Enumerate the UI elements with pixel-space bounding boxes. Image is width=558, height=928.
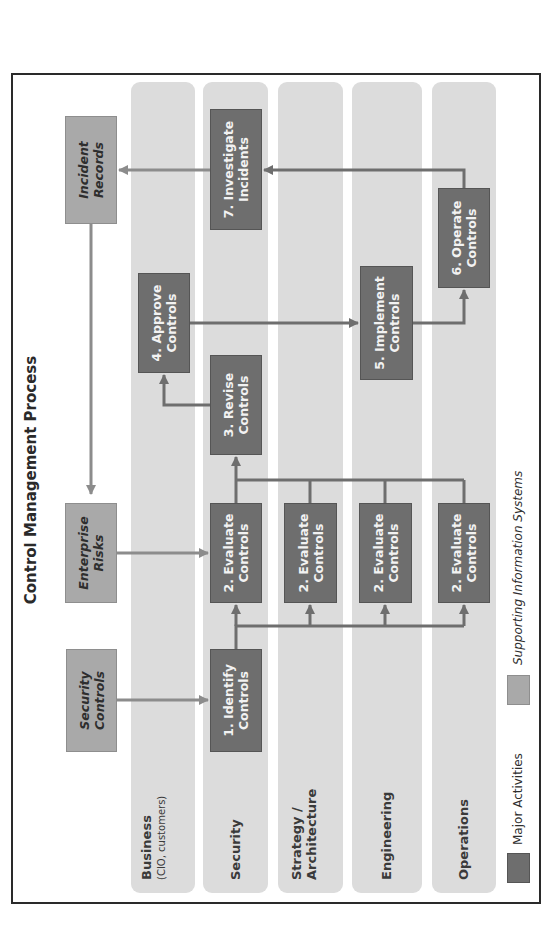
- incident-records-box: IncidentRecords: [65, 116, 117, 224]
- evaluate-controls-security-box: 2. EvaluateControls: [210, 503, 262, 603]
- box-line2: Controls: [236, 375, 251, 434]
- box-line1: 2. Evaluate: [221, 514, 236, 593]
- box-line2: Controls: [236, 671, 251, 730]
- box-line1: 3. Revise: [221, 373, 236, 437]
- box-line1: 6. Operate: [449, 201, 464, 276]
- box-line1: Security: [77, 671, 92, 729]
- box-line2: Controls: [464, 208, 479, 267]
- box-line2: Controls: [311, 523, 326, 582]
- box-line1: 2. Evaluate: [449, 514, 464, 593]
- legend-major-activities-swatch: [507, 853, 530, 883]
- legend-supporting-systems-label: Supporting Information Systems: [507, 471, 530, 665]
- evaluate-controls-engineering-box: 2. EvaluateControls: [359, 503, 412, 603]
- box-line2: Incidents: [236, 137, 251, 202]
- security-controls-box: SecurityControls: [66, 649, 117, 752]
- evaluate-controls-strategy-box: 2. EvaluateControls: [284, 503, 337, 603]
- box-line2: Risks: [91, 534, 106, 571]
- box-line1: Enterprise: [76, 516, 91, 589]
- box-line2: Controls: [387, 293, 402, 352]
- box-line2: Controls: [386, 523, 401, 582]
- investigate-incidents-box: 7. InvestigateIncidents: [210, 109, 262, 230]
- identify-controls-box: 1. IdentifyControls: [210, 649, 262, 752]
- box-line1: 1. Identify: [221, 664, 236, 737]
- box-line2: Controls: [92, 671, 107, 730]
- box-line1: 5. Implement: [372, 276, 387, 370]
- enterprise-risks-box: EnterpriseRisks: [65, 503, 117, 603]
- box-line1: 4. Approve: [149, 285, 164, 362]
- box-line1: 2. Evaluate: [296, 514, 311, 593]
- diagram-canvas: Control Management Process Business (CIO…: [0, 0, 558, 928]
- implement-controls-box: 5. ImplementControls: [360, 266, 413, 380]
- approve-controls-box: 4. ApproveControls: [138, 273, 190, 373]
- box-line1: Incident: [76, 141, 91, 199]
- legend-supporting-systems-swatch: [507, 675, 530, 705]
- box-line2: Records: [91, 142, 106, 198]
- box-line2: Controls: [164, 293, 179, 352]
- box-line2: Controls: [236, 523, 251, 582]
- box-line2: Controls: [464, 523, 479, 582]
- box-line1: 7. Investigate: [221, 121, 236, 219]
- box-line1: 2. Evaluate: [371, 514, 386, 593]
- legend-major-activities-label: Major Activities: [507, 753, 530, 845]
- revise-controls-box: 3. ReviseControls: [210, 355, 262, 455]
- operate-controls-box: 6. OperateControls: [438, 188, 490, 288]
- evaluate-controls-operations-box: 2. EvaluateControls: [438, 503, 490, 603]
